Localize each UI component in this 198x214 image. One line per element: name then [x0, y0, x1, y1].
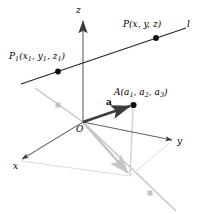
point-A-label: A(a1, a2, a3) — [114, 88, 168, 98]
point-A-marker — [130, 102, 136, 108]
y-axis-label: y — [177, 137, 182, 146]
gray-square-marker-lower — [148, 191, 153, 196]
point-P-label: P(x, y, z) — [123, 20, 161, 29]
projection-base-lines — [21, 122, 172, 176]
diagram-canvas: z y x O l a P(x, y, z) P1(x1, y1, z1) A(… — [0, 0, 198, 214]
point-A-paren-close: ) — [164, 87, 168, 97]
gray-square-marker-upper — [56, 103, 61, 108]
line-l-label: l — [187, 20, 190, 29]
origin-label: O — [76, 125, 83, 134]
diagram-vector-graphics — [0, 0, 198, 214]
vector-a-arrow — [83, 106, 130, 122]
point-P-paren-close: ) — [158, 19, 162, 29]
x-axis-label: x — [13, 162, 18, 171]
point-P1-label: P1(x1, y1, z1) — [9, 52, 65, 62]
point-P1-marker — [55, 69, 61, 75]
vector-a-label: a — [106, 98, 112, 107]
point-P-marker — [153, 35, 159, 41]
x-axis — [22, 122, 83, 159]
z-axis-label: z — [76, 6, 81, 15]
drop-line-from-A — [130, 108, 133, 176]
point-P1-paren-close: ) — [62, 51, 66, 61]
